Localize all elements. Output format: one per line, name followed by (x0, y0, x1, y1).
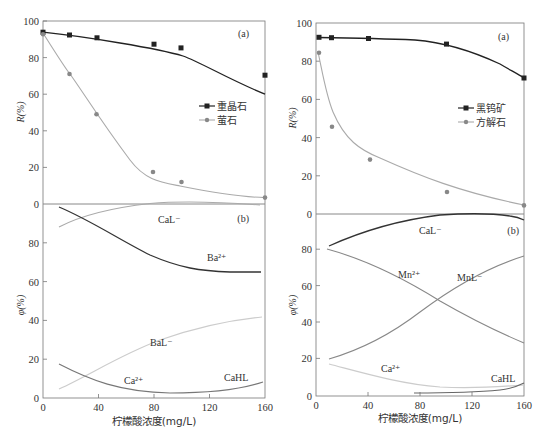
tick-label: 80 (29, 53, 40, 64)
panel-label-a: (a) (498, 31, 509, 43)
panel-label-b: (b) (507, 225, 519, 237)
tick-label: 60 (29, 277, 40, 288)
legend-label: 萤石 (217, 115, 237, 126)
annotation-mn: Mn²⁺ (398, 269, 420, 280)
annotation-ca: Ca²⁺ (124, 375, 143, 386)
y-axis-title-a: R(%) (15, 101, 27, 124)
y-axis-title-b: φ(%) (287, 294, 299, 315)
annotation-cahl: CaHL (491, 373, 515, 384)
left-a-yticks (43, 21, 210, 398)
annotation-cahl: CaHL (224, 372, 248, 383)
legend-label: 重晶石 (217, 100, 247, 112)
tick-label: 0 (34, 199, 39, 210)
tick-label: 60 (302, 94, 313, 105)
tick-label: 40 (29, 126, 40, 137)
right-frame (316, 23, 524, 396)
x-axis-title: 柠檬酸浓度(mg/L) (378, 412, 462, 424)
series-wolframite-line (318, 38, 524, 79)
tick-label: 160 (257, 402, 273, 413)
annotation-ca: Ca²⁺ (381, 363, 400, 374)
tick-label: 80 (302, 56, 313, 67)
annotation-ba: Ba²⁺ (207, 252, 226, 263)
series-barite-markers (41, 30, 268, 78)
tick-label: 40 (363, 400, 374, 411)
legend-right: 黑钨矿 方解石 (458, 102, 506, 128)
series-wolframite-markers (317, 35, 527, 81)
annotation-mnl: MnL⁻ (457, 272, 482, 283)
tick-label: 0 (313, 400, 318, 411)
tick-label: 80 (302, 244, 313, 255)
series-calcite-markers (317, 50, 527, 207)
x-axis-title: 柠檬酸浓度(mg/L) (112, 415, 196, 427)
tick-label: 80 (415, 400, 426, 411)
tick-label: 20 (302, 353, 313, 364)
tick-label: 80 (149, 402, 160, 413)
tick-label: 100 (23, 16, 39, 27)
tick-label: 0 (34, 393, 39, 404)
tick-label: 0 (40, 402, 45, 413)
tick-label: 20 (29, 162, 40, 173)
tick-label: 40 (302, 133, 313, 144)
tick-label: 60 (29, 89, 40, 100)
tick-label: 0 (307, 209, 312, 220)
series-calcite-line (318, 52, 524, 205)
tick-label: 160 (516, 400, 532, 411)
panel-label-b: (b) (237, 213, 249, 225)
species-mn-line (327, 249, 524, 343)
tick-label: 100 (296, 18, 312, 29)
right-figure: 100 80 60 40 20 0 80 60 40 20 0 0 40 80 … (287, 18, 532, 424)
tick-label: 80 (29, 238, 40, 249)
panel-label-a: (a) (238, 28, 249, 40)
legend-label: 黑钨矿 (476, 102, 506, 114)
tick-label: 20 (302, 171, 313, 182)
y-axis-title-a: R(%) (287, 107, 299, 130)
left-figure: 100 80 60 40 20 0 80 60 40 20 0 0 40 80 … (15, 16, 273, 427)
y-axis-title-b: φ(%) (15, 294, 27, 315)
species-mnl-line (329, 256, 524, 359)
annotation-cal: CaL⁻ (158, 214, 181, 225)
series-barite-line (43, 32, 265, 94)
tick-label: 20 (29, 354, 40, 365)
legend-label: 方解石 (476, 116, 506, 128)
tick-label: 60 (302, 281, 313, 292)
tick-label: 120 (202, 402, 218, 413)
tick-label: 40 (29, 315, 40, 326)
legend-left: 重晶石 萤石 (199, 100, 247, 126)
tick-label: 40 (302, 317, 313, 328)
annotation-cal: CaL⁻ (419, 225, 442, 236)
figure: 100 80 60 40 20 0 80 60 40 20 0 0 40 80 … (0, 0, 542, 438)
tick-label: 120 (464, 400, 480, 411)
tick-label: 40 (93, 402, 104, 413)
right-yticks (316, 61, 472, 396)
annotation-bal: BaL⁻ (150, 337, 173, 348)
tick-label: 0 (307, 391, 312, 402)
